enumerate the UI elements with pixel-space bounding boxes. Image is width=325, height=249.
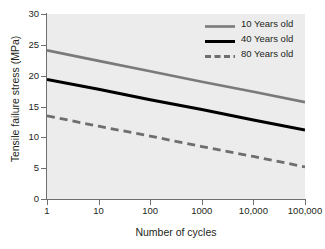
legend-swatch-icon	[205, 33, 235, 44]
legend-swatch-icon	[205, 48, 235, 59]
x-tick-label: 100,000	[275, 206, 325, 216]
y-axis-label-text: Tensile failure stress (MPa)	[9, 0, 21, 199]
x-axis-line	[46, 199, 306, 200]
legend-swatch-icon	[205, 18, 235, 29]
legend-label: 10 Years old	[241, 18, 293, 29]
legend-label: 80 Years old	[241, 48, 293, 59]
y-tick-mark	[41, 199, 46, 200]
y-tick-mark	[41, 137, 46, 138]
y-tick-mark	[41, 168, 46, 169]
chart-legend: 10 Years old40 Years old80 Years old	[205, 17, 315, 62]
y-tick-mark	[41, 14, 46, 15]
legend-item: 10 Years old	[205, 17, 315, 30]
x-axis-label-text: Number of cycles	[47, 226, 305, 238]
legend-label: 40 Years old	[241, 33, 293, 44]
legend-item: 40 Years old	[205, 32, 315, 45]
y-tick-mark	[41, 76, 46, 77]
legend-item: 80 Years old	[205, 47, 315, 60]
y-tick-mark	[41, 107, 46, 108]
chart-figure: 051015202530 110100100010,000100,000 Ten…	[0, 0, 325, 249]
y-tick-mark	[41, 45, 46, 46]
y-axis-label: Tensile failure stress (MPa)	[9, 0, 23, 199]
